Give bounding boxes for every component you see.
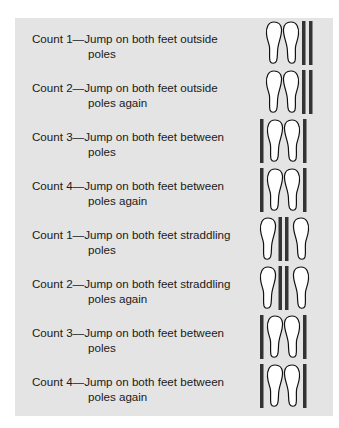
step-description: Jump on both feet straddling (84, 277, 230, 290)
step-text: Count 2—Jump on both feet outside poles … (32, 80, 262, 110)
step-description-continued: poles (32, 340, 262, 355)
feet-straddling-poles-icon (259, 217, 311, 261)
step-text: Count 1—Jump on both feet straddling pol… (32, 227, 262, 257)
step-row: Count 3—Jump on both feet between poles (15, 116, 333, 165)
step-count: Count 1— (32, 32, 84, 45)
step-description-continued: poles again (32, 389, 262, 404)
step-row: Count 4—Jump on both feet between poles … (15, 361, 333, 410)
step-row: Count 2—Jump on both feet straddling pol… (15, 263, 333, 312)
step-text: Count 4—Jump on both feet between poles … (32, 178, 262, 208)
step-description: Jump on both feet outside (84, 81, 217, 94)
step-description: Jump on both feet between (84, 130, 224, 143)
feet-between-poles-icon (259, 315, 309, 359)
step-description: Jump on both feet straddling (84, 228, 230, 241)
step-row: Count 3—Jump on both feet between poles (15, 312, 333, 361)
feet-outside-poles-icon (265, 70, 315, 114)
step-count: Count 2— (32, 277, 84, 290)
step-row: Count 1—Jump on both feet straddling pol… (15, 214, 333, 263)
step-text: Count 3—Jump on both feet between poles (32, 129, 262, 159)
feet-between-poles-icon (259, 168, 309, 212)
step-count: Count 4— (32, 179, 84, 192)
step-count: Count 3— (32, 130, 84, 143)
step-text: Count 3—Jump on both feet between poles (32, 325, 262, 355)
step-row: Count 1—Jump on both feet outside poles (15, 18, 333, 67)
step-description-continued: poles (32, 144, 262, 159)
step-description-continued: poles again (32, 193, 262, 208)
step-description-continued: poles again (32, 95, 262, 110)
step-text: Count 1—Jump on both feet outside poles (32, 31, 262, 61)
step-description-continued: poles (32, 46, 262, 61)
step-description: Jump on both feet between (84, 326, 224, 339)
step-count: Count 2— (32, 81, 84, 94)
step-count: Count 1— (32, 228, 84, 241)
step-description: Jump on both feet outside (84, 32, 217, 45)
feet-between-poles-icon (259, 119, 309, 163)
step-text: Count 4—Jump on both feet between poles … (32, 374, 262, 404)
step-row: Count 2—Jump on both feet outside poles … (15, 67, 333, 116)
feet-straddling-poles-icon (259, 266, 311, 310)
feet-outside-poles-icon (265, 21, 315, 65)
step-description-continued: poles (32, 242, 262, 257)
step-description-continued: poles again (32, 291, 262, 306)
step-row: Count 4—Jump on both feet between poles … (15, 165, 333, 214)
step-count: Count 4— (32, 375, 84, 388)
instruction-panel: Count 1—Jump on both feet outside poles … (15, 18, 333, 416)
step-description: Jump on both feet between (84, 179, 224, 192)
feet-between-poles-icon (259, 364, 309, 408)
step-count: Count 3— (32, 326, 84, 339)
step-description: Jump on both feet between (84, 375, 224, 388)
step-text: Count 2—Jump on both feet straddling pol… (32, 276, 262, 306)
